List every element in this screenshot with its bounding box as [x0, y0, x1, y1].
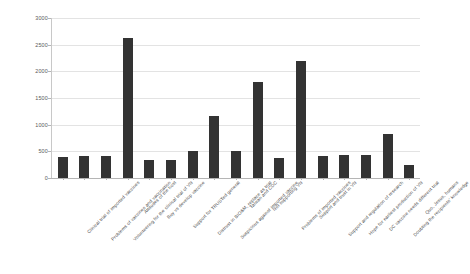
y-axis-tick-label: 0 [2, 175, 48, 181]
bar [274, 158, 284, 178]
x-axis-tick-mark [301, 178, 302, 180]
x-axis-tick-mark [258, 178, 259, 180]
y-axis-tick-label: 3000 [2, 15, 48, 21]
y-axis-tick-labels: 050010001500200025003000 [0, 0, 48, 274]
bar [144, 160, 154, 178]
x-axis-tick-mark [128, 178, 129, 180]
x-axis-tick-label: Clinical trial of imported vaccines [86, 180, 141, 235]
x-axis-tick-mark [366, 178, 367, 180]
gridline [52, 71, 420, 72]
bar [166, 160, 176, 178]
y-axis-tick-label: 1000 [2, 122, 48, 128]
bar [383, 134, 393, 178]
gridline [52, 125, 420, 126]
bar [296, 61, 306, 178]
x-axis-tick-mark [84, 178, 85, 180]
bar [58, 157, 68, 178]
y-axis-tick-label: 500 [2, 148, 48, 154]
y-axis-tick-label: 2000 [2, 68, 48, 74]
bar [123, 38, 133, 178]
x-axis-tick-mark [344, 178, 345, 180]
x-axis-tick-labels: Clinical trial of imported vaccinesProbl… [52, 180, 432, 274]
x-axis-tick-label: Doubting the recipients' knowledge [412, 180, 470, 238]
x-axis-tick-mark [409, 178, 410, 180]
gridline [52, 45, 420, 46]
y-axis-tick-label: 2500 [2, 42, 48, 48]
gridline [52, 98, 420, 99]
bar [209, 116, 219, 178]
bar [101, 156, 111, 178]
x-axis-tick-mark [279, 178, 280, 180]
x-axis-tick-mark [149, 178, 150, 180]
bar [79, 156, 89, 178]
bar [188, 151, 198, 178]
bar [231, 151, 241, 178]
x-axis-tick-mark [388, 178, 389, 180]
bar [404, 165, 414, 178]
x-axis-tick-mark [214, 178, 215, 180]
bar [339, 155, 349, 178]
x-axis-tick-mark [193, 178, 194, 180]
bar [318, 156, 328, 178]
x-axis-tick-label: Support and trust in VN [318, 180, 358, 220]
x-axis-tick-mark [63, 178, 64, 180]
y-axis-tick-label: 1500 [2, 95, 48, 101]
plot-area [52, 18, 420, 178]
x-axis-tick-mark [323, 178, 324, 180]
x-axis-tick-mark [106, 178, 107, 180]
bar [253, 82, 263, 178]
bar [361, 155, 371, 178]
gridline [52, 18, 420, 19]
x-axis-tick-mark [236, 178, 237, 180]
x-axis-tick-mark [171, 178, 172, 180]
